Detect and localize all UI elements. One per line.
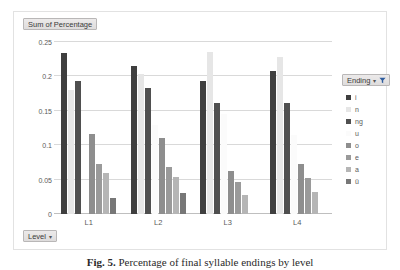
- bar-ng-L3[interactable]: [214, 103, 220, 214]
- bar-o-L3[interactable]: [228, 171, 234, 214]
- legend-items: innguoeaü: [342, 91, 390, 187]
- legend-item-label: n: [355, 106, 359, 113]
- bar-u-L4[interactable]: [291, 135, 297, 214]
- legend-item-n[interactable]: n: [346, 103, 390, 115]
- x-tick-label: L2: [124, 218, 194, 227]
- bar-ng-L2[interactable]: [145, 88, 151, 214]
- legend-item-o[interactable]: o: [346, 139, 390, 151]
- legend: Ending ▾ innguoeaü: [342, 74, 390, 187]
- value-field-button[interactable]: Sum of Percentage: [23, 18, 97, 30]
- value-field-label: Sum of Percentage: [28, 19, 92, 30]
- bar-ü-L2[interactable]: [180, 193, 186, 214]
- y-tick-label: 0: [48, 211, 52, 218]
- x-axis: L1L2L3L4: [54, 218, 332, 227]
- bar-a-L4[interactable]: [312, 192, 318, 214]
- legend-item-label: o: [355, 142, 359, 149]
- chevron-down-icon: ▾: [373, 78, 376, 84]
- legend-item-ü[interactable]: ü: [346, 175, 390, 187]
- legend-item-label: e: [355, 154, 359, 161]
- legend-item-ng[interactable]: ng: [346, 115, 390, 127]
- plot-area: [54, 42, 332, 214]
- bar-o-L4[interactable]: [298, 164, 304, 214]
- x-tick-label: L4: [263, 218, 333, 227]
- legend-item-label: ü: [355, 178, 359, 185]
- bar-n-L3[interactable]: [207, 52, 213, 214]
- legend-item-a[interactable]: a: [346, 163, 390, 175]
- bar-i-L3[interactable]: [200, 81, 206, 214]
- bar-ü-L1[interactable]: [110, 198, 116, 214]
- bar-e-L2[interactable]: [166, 167, 172, 214]
- bar-i-L1[interactable]: [61, 53, 67, 214]
- bar-n-L2[interactable]: [138, 74, 144, 214]
- y-tick-label: 0.05: [38, 176, 52, 183]
- bar-i-L2[interactable]: [131, 66, 137, 214]
- bar-u-L3[interactable]: [221, 114, 227, 214]
- bar-a-L1[interactable]: [103, 173, 109, 214]
- y-axis: 00.050.10.150.20.25: [28, 42, 52, 214]
- legend-swatch-icon: [346, 155, 351, 160]
- bar-series-layer: [54, 42, 332, 214]
- row-field-button[interactable]: Level ▾: [23, 230, 57, 242]
- legend-swatch-icon: [346, 179, 351, 184]
- bar-o-L2[interactable]: [159, 138, 165, 214]
- bar-group: [54, 42, 124, 214]
- bar-group: [193, 42, 263, 214]
- legend-item-label: i: [355, 94, 357, 101]
- legend-item-u[interactable]: u: [346, 127, 390, 139]
- x-tick-label: L1: [54, 218, 124, 227]
- bar-ng-L1[interactable]: [75, 81, 81, 214]
- legend-item-i[interactable]: i: [346, 91, 390, 103]
- legend-swatch-icon: [346, 131, 351, 136]
- bar-group: [263, 42, 333, 214]
- bar-n-L4[interactable]: [277, 57, 283, 214]
- legend-swatch-icon: [346, 119, 351, 124]
- bar-i-L4[interactable]: [270, 71, 276, 214]
- bar-a-L2[interactable]: [173, 177, 179, 214]
- figure-caption-text: Percentage of final syllable endings by …: [118, 256, 313, 268]
- legend-item-label: u: [355, 130, 359, 137]
- legend-swatch-icon: [346, 143, 351, 148]
- filter-icon[interactable]: [379, 77, 386, 84]
- legend-swatch-icon: [346, 107, 351, 112]
- bar-e-L4[interactable]: [305, 178, 311, 214]
- bar-n-L1[interactable]: [68, 90, 74, 214]
- y-tick-label: 0.15: [38, 107, 52, 114]
- bar-e-L3[interactable]: [235, 182, 241, 214]
- legend-item-e[interactable]: e: [346, 151, 390, 163]
- legend-item-label: ng: [355, 118, 363, 125]
- legend-swatch-icon: [346, 167, 351, 172]
- legend-field-button[interactable]: Ending ▾: [342, 74, 390, 86]
- y-tick-label: 0.2: [42, 73, 52, 80]
- figure-caption-label: Fig. 5.: [87, 256, 116, 268]
- row-field-label: Level: [28, 231, 46, 242]
- chevron-down-icon: ▾: [49, 234, 52, 240]
- legend-item-label: a: [355, 166, 359, 173]
- bar-u-L2[interactable]: [152, 125, 158, 214]
- legend-swatch-icon: [346, 95, 351, 100]
- bar-group: [124, 42, 194, 214]
- bar-o-L1[interactable]: [89, 134, 95, 214]
- bar-a-L3[interactable]: [242, 195, 248, 214]
- pivot-chart-frame[interactable]: Sum of Percentage 00.050.10.150.20.25 L1…: [13, 11, 387, 250]
- legend-title: Ending: [347, 75, 370, 86]
- bar-ng-L4[interactable]: [284, 103, 290, 214]
- x-tick-label: L3: [193, 218, 263, 227]
- bar-e-L1[interactable]: [96, 164, 102, 214]
- y-tick-label: 0.1: [42, 142, 52, 149]
- figure-caption: Fig. 5. Percentage of final syllable end…: [0, 256, 400, 270]
- y-tick-label: 0.25: [38, 39, 52, 46]
